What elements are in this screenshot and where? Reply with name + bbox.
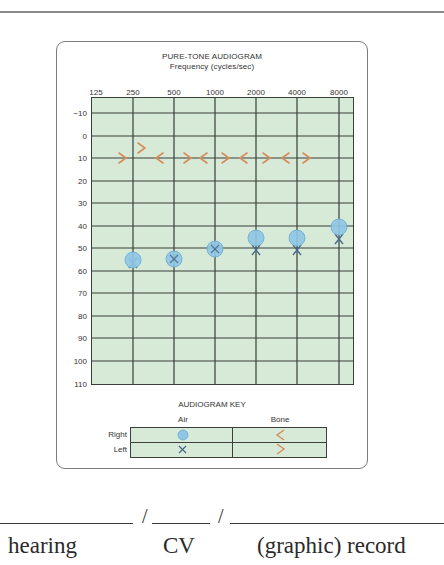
left-air-x-icon [179, 446, 186, 453]
key-symbols [130, 427, 327, 458]
caption-label-hearing: hearing [8, 533, 77, 559]
key-col-bone: Bone [271, 415, 290, 424]
key-title: AUDIOGRAM KEY [56, 400, 368, 409]
right-air-circle-icon [125, 252, 141, 268]
grid-lines [91, 97, 354, 385]
right-air-circle-icon [331, 219, 347, 235]
slash-separator: / [218, 505, 224, 528]
blank-line-1 [0, 523, 133, 524]
left-bone-marker-icon [277, 444, 284, 454]
blank-line-2 [152, 523, 210, 524]
key-row-right: Right [96, 430, 127, 439]
right-air-circle-icon [178, 430, 188, 440]
right-air-circle-icon [248, 230, 264, 246]
caption-label-cv: CV [163, 533, 195, 559]
audiogram-key-table [130, 427, 327, 458]
right-air-circle-icon [289, 230, 305, 246]
left-air-markers [129, 234, 343, 268]
slash-separator: / [142, 505, 148, 528]
right-bone-marker-icon [277, 430, 284, 440]
key-col-air: Air [178, 415, 188, 424]
blank-line-3 [230, 523, 444, 524]
caption-label-record: (graphic) record [257, 533, 406, 559]
left-bone-marker-icon [138, 143, 145, 153]
key-row-left: Left [96, 445, 127, 454]
audiogram-plot-overlay [0, 0, 444, 565]
